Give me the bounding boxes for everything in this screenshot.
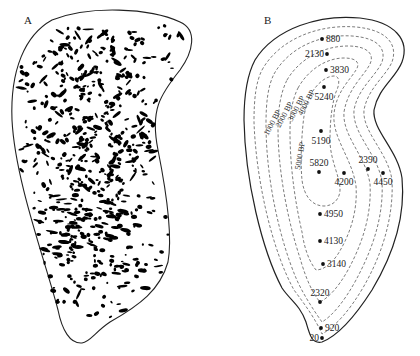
date-point (320, 336, 324, 340)
date-point-label: 4130 (324, 236, 343, 246)
date-point (342, 171, 346, 175)
date-point-label: 5240 (315, 92, 334, 102)
date-point (324, 68, 328, 72)
panel-a (12, 10, 192, 343)
date-point (319, 326, 323, 330)
date-point-label: 20 (310, 333, 320, 343)
date-point-label: 920 (325, 323, 340, 333)
figure: 1000 BP 2000 BP 3000 BP 4000 BP 5000 BP … (0, 0, 420, 356)
date-point-label: 2390 (359, 155, 378, 165)
date-point-label: 3830 (330, 65, 349, 75)
date-point (318, 239, 322, 243)
panel-a-label: A (24, 14, 32, 26)
date-point-label: 2320 (311, 288, 330, 298)
date-point-label: 4450 (374, 177, 393, 187)
date-point-label: 3140 (327, 259, 346, 269)
panel-b: 1000 BP 2000 BP 3000 BP 4000 BP 5000 BP … (244, 17, 404, 343)
date-point (325, 52, 329, 56)
date-point (318, 300, 322, 304)
date-point (319, 129, 323, 133)
date-point (320, 37, 324, 41)
date-point-label: 5820 (310, 158, 329, 168)
date-point (321, 262, 325, 266)
panel-b-label: B (264, 14, 271, 26)
figure-canvas: 1000 BP 2000 BP 3000 BP 4000 BP 5000 BP … (0, 0, 420, 356)
date-point (381, 171, 385, 175)
date-point-label: 880 (326, 34, 341, 44)
date-point-label: 4200 (335, 177, 354, 187)
date-point-label: 2130 (305, 49, 324, 59)
date-point (318, 212, 322, 216)
date-point-label: 5190 (312, 136, 331, 146)
date-point (317, 170, 321, 174)
date-point (366, 167, 370, 171)
date-point-label: 4950 (324, 209, 343, 219)
date-point (322, 85, 326, 89)
